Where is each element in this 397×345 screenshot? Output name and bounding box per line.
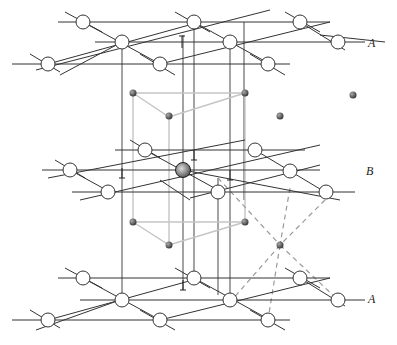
central-atom [176,163,191,178]
spacing-markers [119,36,233,290]
layer-label-a-top: A [368,36,375,51]
layer-b-middle [42,140,355,200]
layer-a-bottom [12,268,365,330]
layer-a-top [12,10,385,75]
layer-label-b: B [366,164,373,179]
crystal-structure-diagram [0,0,397,345]
layer-label-a-bottom: A [368,292,375,307]
